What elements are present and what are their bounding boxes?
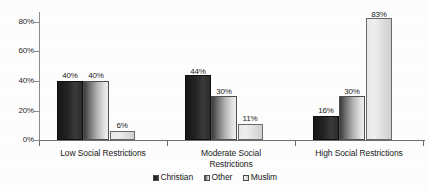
x-axis-category-low: Low Social Restrictions <box>35 148 171 159</box>
bar-low-muslim[interactable] <box>110 131 135 140</box>
y-axis-label-60: 60% <box>2 47 34 55</box>
bar-low-christian[interactable] <box>57 81 83 140</box>
x-axis-category-high-line1: High Social Restrictions <box>291 148 427 159</box>
x-axis-category-low-line1: Low Social Restrictions <box>35 148 171 159</box>
bar-value-high-other: 30% <box>332 88 372 96</box>
x-axis-category-moderate: Moderate Social Restrictions <box>163 148 299 169</box>
y-axis-label-0: 0% <box>2 136 34 144</box>
bar-low-other[interactable] <box>83 81 109 140</box>
bar-moderate-christian[interactable] <box>185 75 211 140</box>
legend-swatch-muslim-icon <box>243 175 249 181</box>
x-axis-tick <box>295 141 296 146</box>
x-axis-category-moderate-line2: Restrictions <box>163 159 299 170</box>
x-axis-tick <box>167 141 168 146</box>
legend-label-muslim: Muslim <box>251 173 277 182</box>
x-axis-tick <box>39 141 40 146</box>
chart-legend: Christian Other Muslim <box>0 173 430 182</box>
bar-high-muslim[interactable] <box>366 18 392 140</box>
y-axis-label-20: 20% <box>2 107 34 115</box>
legend-item-christian[interactable]: Christian <box>153 173 193 182</box>
legend-swatch-christian-icon <box>153 175 159 181</box>
bar-high-christian[interactable] <box>313 116 339 140</box>
bar-value-moderate-christian: 44% <box>178 68 218 76</box>
bar-value-high-christian: 16% <box>306 107 346 115</box>
y-axis-label-80: 80% <box>2 18 34 26</box>
x-axis-category-moderate-line1: Moderate Social <box>163 148 299 159</box>
bar-moderate-muslim[interactable] <box>238 124 263 140</box>
y-axis-label-40: 40% <box>2 77 34 85</box>
bar-value-low-muslim: 6% <box>102 122 142 130</box>
bar-value-moderate-muslim: 11% <box>230 115 270 123</box>
bar-value-moderate-other: 30% <box>204 88 244 96</box>
bar-value-high-muslim: 83% <box>359 11 399 19</box>
legend-item-muslim[interactable]: Muslim <box>243 173 277 182</box>
legend-item-other[interactable]: Other <box>204 173 232 182</box>
x-axis-category-high: High Social Restrictions <box>291 148 427 159</box>
legend-label-other: Other <box>212 173 233 182</box>
plot-area: 40% 40% 6% 44% 30% 11% 16% 30% 83% <box>39 12 423 140</box>
x-axis-line <box>39 140 425 141</box>
bar-high-other[interactable] <box>339 96 365 140</box>
bar-value-low-other: 40% <box>76 72 116 80</box>
legend-label-christian: Christian <box>160 173 193 182</box>
x-axis-tick <box>423 141 424 146</box>
bar-chart: 80% 60% 40% 20% 0% 40% 40% 6% 44% 30% 11… <box>0 0 430 193</box>
legend-swatch-other-icon <box>204 175 210 181</box>
